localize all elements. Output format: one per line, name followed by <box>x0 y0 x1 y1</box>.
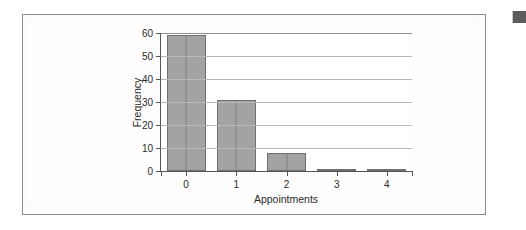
page-margin-mark <box>512 11 526 23</box>
y-axis-tick <box>156 56 161 57</box>
x-axis-tick <box>236 171 237 176</box>
y-axis-tick <box>156 33 161 34</box>
y-axis-tick-label: 0 <box>147 166 153 177</box>
gridline <box>161 148 412 149</box>
y-axis-title: Frequency <box>131 33 145 172</box>
bar[interactable] <box>267 153 306 171</box>
x-axis-tick <box>287 171 288 176</box>
gridline <box>161 79 412 80</box>
bar[interactable] <box>217 100 256 171</box>
bar-chart: 010203040506001234 Frequency Appointment… <box>23 15 487 216</box>
y-axis-tick <box>156 125 161 126</box>
x-axis-tick-label: 1 <box>234 179 240 190</box>
gridline <box>161 125 412 126</box>
plot-area: 010203040506001234 <box>160 33 412 172</box>
y-axis-tick <box>156 79 161 80</box>
x-axis-tick-label: 0 <box>183 179 189 190</box>
x-axis-edge-tick <box>412 171 413 176</box>
x-axis-tick <box>337 171 338 176</box>
x-axis-tick-label: 4 <box>384 179 390 190</box>
x-axis-title: Appointments <box>160 193 412 205</box>
gridline <box>161 56 412 57</box>
gridline <box>161 33 412 34</box>
x-axis-tick-label: 3 <box>334 179 340 190</box>
x-axis-tick <box>387 171 388 176</box>
x-axis-tick-label: 2 <box>284 179 290 190</box>
y-axis-tick <box>156 102 161 103</box>
x-axis-tick <box>186 171 187 176</box>
gridline <box>161 102 412 103</box>
x-axis-edge-tick <box>161 171 162 176</box>
scanned-page-frame: 010203040506001234 Frequency Appointment… <box>22 14 486 215</box>
y-axis-tick <box>156 148 161 149</box>
